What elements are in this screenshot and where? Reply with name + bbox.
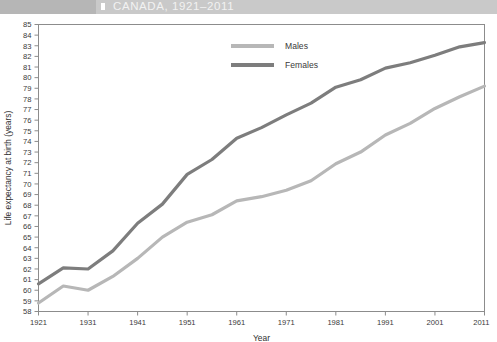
y-tick-label: 71 <box>23 169 31 178</box>
legend-label-males: Males <box>285 41 308 51</box>
y-tick-label: 82 <box>23 52 31 61</box>
y-tick-label: 63 <box>23 254 31 263</box>
y-tick-label: 59 <box>23 297 31 306</box>
plot-frame <box>39 25 485 312</box>
x-axis-tick-labels: 1921193119411951196119711981199120012011 <box>30 318 489 327</box>
y-tick-label: 81 <box>23 63 31 72</box>
y-tick-label: 72 <box>23 158 31 167</box>
series-group <box>39 43 485 303</box>
y-tick-label: 80 <box>23 73 31 82</box>
y-axis-title: Life expectancy at birth (years) <box>3 111 13 226</box>
page-title: CANADA, 1921–2011 <box>113 0 234 13</box>
y-tick-label: 62 <box>23 265 31 274</box>
line-chart: 5859606162636465666768697071727374757677… <box>0 14 497 342</box>
y-tick-label: 58 <box>23 307 31 316</box>
y-tick-label: 68 <box>23 201 31 210</box>
y-tick-label: 66 <box>23 222 31 231</box>
y-tick-label: 84 <box>23 31 31 40</box>
y-tick-label: 65 <box>23 233 31 242</box>
y-tick-label: 60 <box>23 286 31 295</box>
x-tick-label: 1921 <box>30 318 47 327</box>
chart-legend: MalesFemales <box>231 41 318 70</box>
y-axis-tick-labels: 5859606162636465666768697071727374757677… <box>23 20 31 316</box>
series-line-females <box>39 43 485 284</box>
y-tick-label: 61 <box>23 275 31 284</box>
x-tick-label: 2001 <box>426 318 443 327</box>
banner-band-left <box>0 0 96 14</box>
legend-label-females: Females <box>285 60 318 70</box>
x-tick-label: 1931 <box>80 318 97 327</box>
banner-bullet-separator <box>101 3 105 10</box>
series-line-males <box>39 86 485 303</box>
x-axis-title: Year <box>253 333 270 342</box>
y-tick-label: 73 <box>23 148 31 157</box>
y-tick-label: 83 <box>23 42 31 51</box>
y-tick-label: 77 <box>23 105 31 114</box>
x-tick-label: 1991 <box>377 318 394 327</box>
x-tick-label: 1951 <box>179 318 196 327</box>
y-tick-label: 75 <box>23 127 31 136</box>
x-axis-ticks <box>39 312 485 316</box>
x-tick-label: 1981 <box>327 318 344 327</box>
y-tick-label: 76 <box>23 116 31 125</box>
y-tick-label: 74 <box>23 137 31 146</box>
y-tick-label: 64 <box>23 244 31 253</box>
header-banner: CANADA, 1921–2011 <box>0 0 497 14</box>
y-tick-label: 78 <box>23 95 31 104</box>
x-tick-label: 1961 <box>228 318 245 327</box>
chart-svg: 5859606162636465666768697071727374757677… <box>0 14 497 342</box>
y-tick-label: 69 <box>23 190 31 199</box>
y-tick-label: 85 <box>23 20 31 29</box>
y-tick-label: 70 <box>23 180 31 189</box>
x-tick-label: 1971 <box>278 318 295 327</box>
x-tick-label: 2011 <box>473 318 489 327</box>
x-tick-label: 1941 <box>129 318 146 327</box>
y-tick-label: 67 <box>23 212 31 221</box>
y-axis-ticks <box>35 25 39 312</box>
y-tick-label: 79 <box>23 84 31 93</box>
